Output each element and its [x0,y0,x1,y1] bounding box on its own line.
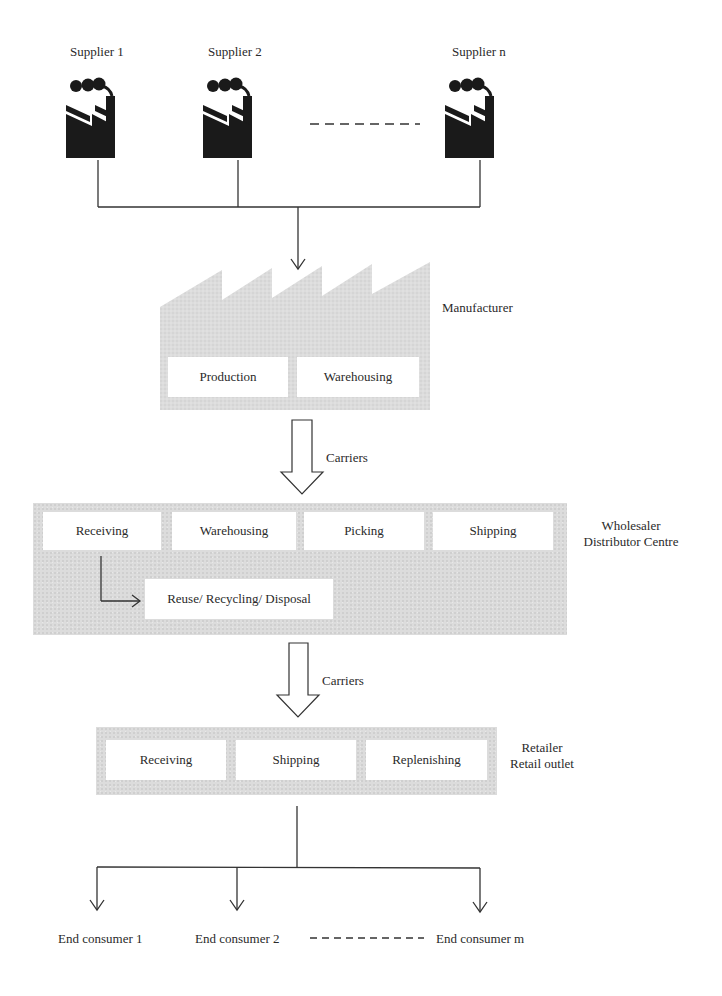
end-consumer-2-label: End consumer 2 [195,931,279,947]
manufacturer-label: Manufacturer [442,300,513,316]
end-consumer-m-label: End consumer m [436,931,524,947]
reverse-logistics-arrow [0,0,722,996]
supplier-connector-lines [0,0,722,996]
wholesaler-label: Wholesaler Distributor Centre [576,518,686,550]
manufacturer-warehousing-box: Warehousing [297,357,419,397]
wholesaler-label-line1: Wholesaler [601,518,660,533]
wholesaler-shipping-box: Shipping [433,512,553,550]
suppliers-ellipsis-dashes [0,0,722,996]
retailer-replenishing-box: Replenishing [366,740,487,780]
wholesaler-picking-box: Picking [304,512,424,550]
carriers-label-2: Carriers [322,673,364,689]
carriers-label-1: Carriers [326,450,368,466]
retailer-label-line1: Retailer [521,740,562,755]
reuse-recycling-disposal-box: Reuse/ Recycling/ Disposal [145,579,333,619]
supplier-n-label: Supplier n [452,44,506,60]
wholesaler-label-line2: Distributor Centre [584,534,679,549]
factory-icon [0,0,722,996]
supplier-2-label: Supplier 2 [208,44,262,60]
carriers-arrow-2 [0,0,722,996]
manufacturer-production-box: Production [168,357,288,397]
consumers-ellipsis-dashes [0,0,722,996]
wholesaler-warehousing-box: Warehousing [172,512,296,550]
end-consumer-1-label: End consumer 1 [58,931,142,947]
consumer-connector-lines [0,0,722,996]
retailer-receiving-box: Receiving [106,740,226,780]
wholesaler-receiving-box: Receiving [43,512,161,550]
carriers-arrow-1 [0,0,722,996]
retailer-label: Retailer Retail outlet [502,740,582,772]
retailer-shipping-box: Shipping [236,740,356,780]
retailer-label-line2: Retail outlet [510,756,574,771]
supplier-1-label: Supplier 1 [70,44,124,60]
manufacturer-factory-shape [0,0,722,996]
